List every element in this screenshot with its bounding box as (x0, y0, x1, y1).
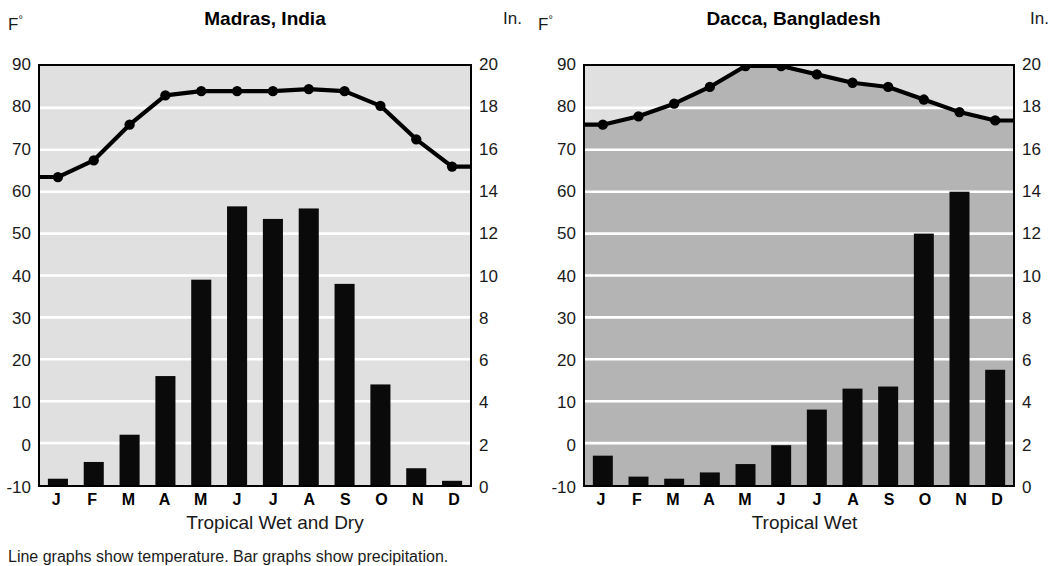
temperature-data-point (411, 134, 421, 144)
plot-area-wrapper: 9080706050403020100-10 20181614121086420… (583, 64, 1015, 487)
precipitation-bar (155, 376, 175, 485)
temperature-data-point (669, 99, 679, 109)
temperature-data-point (847, 78, 857, 88)
temperature-data-point (990, 115, 1000, 125)
temperature-tick-label: 10 (557, 394, 576, 411)
precipitation-tick-label: 8 (479, 310, 488, 327)
month-label: A (847, 491, 859, 509)
temperature-data-point (919, 94, 929, 104)
precipitation-tick-label: 6 (479, 352, 488, 369)
chart-footnote: Line graphs show temperature. Bar graphs… (8, 548, 448, 566)
month-label: J (597, 491, 606, 509)
temperature-tick-label: 0 (22, 437, 31, 454)
temperature-tick-label: 80 (12, 98, 31, 115)
month-label: J (232, 491, 241, 509)
temperature-tick-label: 60 (557, 183, 576, 200)
precipitation-bar (914, 234, 934, 485)
precipitation-bar (191, 280, 211, 485)
month-label: S (340, 491, 351, 509)
climate-chart-madras: F° Madras, India In. 9080706050403020100… (0, 0, 530, 563)
plot-area-wrapper: 9080706050403020100-10 20181614121086420… (38, 64, 472, 487)
precipitation-tick-label: 0 (1022, 479, 1031, 496)
month-label: M (194, 491, 207, 509)
precipitation-bar (370, 384, 390, 485)
chart-title: Dacca, Bangladesh (530, 8, 1057, 30)
temperature-data-point (160, 90, 170, 100)
precipitation-bar (263, 219, 283, 485)
precipitation-tick-label: 4 (1022, 394, 1031, 411)
temperature-tick-label: 50 (557, 225, 576, 242)
month-label: O (919, 491, 931, 509)
temperature-tick-label: 40 (557, 268, 576, 285)
temperature-tick-label: 90 (557, 56, 576, 73)
precipitation-tick-label: 6 (1022, 352, 1031, 369)
month-label: A (159, 491, 171, 509)
month-label: D (448, 491, 460, 509)
temperature-tick-label: 50 (12, 225, 31, 242)
precipitation-bar (120, 435, 140, 485)
precipitation-bar (843, 389, 863, 485)
precipitation-tick-label: 14 (479, 183, 498, 200)
month-label: M (738, 491, 751, 509)
climate-type-label: Tropical Wet (530, 512, 1057, 534)
precipitation-axis-unit-label: In. (503, 8, 522, 30)
precipitation-bar (950, 192, 970, 485)
precipitation-tick-label: 20 (1022, 56, 1041, 73)
precipitation-tick-label: 10 (479, 268, 498, 285)
precipitation-axis-unit-label: In. (1030, 8, 1049, 30)
month-label: D (991, 491, 1003, 509)
precipitation-tick-label: 18 (479, 98, 498, 115)
plot-area (583, 64, 1015, 487)
precipitation-bar (771, 445, 791, 485)
precipitation-bar (700, 472, 720, 485)
month-label: N (412, 491, 424, 509)
temperature-tick-label: -10 (551, 479, 576, 496)
month-label: S (884, 491, 895, 509)
temperature-tick-label: 10 (12, 394, 31, 411)
precipitation-bar (48, 479, 68, 485)
month-label: M (122, 491, 135, 509)
precipitation-tick-label: 14 (1022, 183, 1041, 200)
month-label: J (52, 491, 61, 509)
temperature-data-point (375, 101, 385, 111)
chart-canvas (40, 66, 470, 485)
plot-area (38, 64, 472, 487)
precipitation-tick-label: 8 (1022, 310, 1031, 327)
precipitation-bar (335, 284, 355, 485)
precipitation-bar (593, 456, 613, 485)
precipitation-tick-label: 2 (1022, 437, 1031, 454)
temperature-tick-label: 70 (557, 141, 576, 158)
temperature-data-point (633, 111, 643, 121)
temperature-data-point (447, 161, 457, 171)
precipitation-bar (84, 462, 104, 485)
precipitation-bar (985, 370, 1005, 485)
temperature-tick-label: 60 (12, 183, 31, 200)
chart-title: Madras, India (0, 8, 530, 30)
temperature-tick-label: 0 (567, 437, 576, 454)
precipitation-bar (878, 387, 898, 485)
month-label: F (632, 491, 642, 509)
precipitation-tick-label: 2 (479, 437, 488, 454)
temperature-data-point (339, 86, 349, 96)
month-label: A (303, 491, 315, 509)
precipitation-tick-label: 16 (479, 141, 498, 158)
month-label: J (777, 491, 786, 509)
temperature-data-point (53, 172, 63, 182)
temperature-line (40, 89, 470, 177)
chart-canvas (585, 66, 1013, 485)
precipitation-bar (736, 464, 756, 485)
precipitation-tick-label: 10 (1022, 268, 1041, 285)
temperature-data-point (232, 86, 242, 96)
month-label: M (666, 491, 679, 509)
precipitation-bar (664, 479, 684, 485)
temperature-tick-label: 40 (12, 268, 31, 285)
temperature-data-point (89, 155, 99, 165)
precipitation-bar (807, 410, 827, 485)
precipitation-tick-label: 4 (479, 394, 488, 411)
temperature-data-point (954, 107, 964, 117)
temperature-data-point (124, 120, 134, 130)
temperature-tick-label: 90 (12, 56, 31, 73)
temperature-data-point (883, 82, 893, 92)
precipitation-tick-label: 16 (1022, 141, 1041, 158)
precipitation-tick-label: 18 (1022, 98, 1041, 115)
